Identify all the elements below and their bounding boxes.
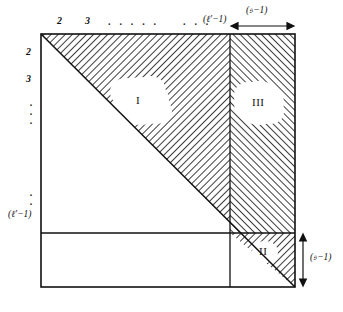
region-label-III: III xyxy=(252,97,265,108)
region-diagram xyxy=(0,0,343,312)
left-tick-3: 3 xyxy=(26,74,31,84)
top-tick-3: 3 xyxy=(85,16,90,26)
region-label-II: II xyxy=(259,246,267,257)
left-dots-upper: ... xyxy=(27,98,35,125)
top-dots-middle: . . . . . xyxy=(108,17,159,27)
top-tick-2: 2 xyxy=(57,16,62,26)
top-bracket-label: (𝔰−1) xyxy=(246,6,268,16)
left-end-label: (ℓ′−1) xyxy=(8,210,32,220)
left-tick-2: 2 xyxy=(26,47,31,57)
region-label-I: I xyxy=(136,95,140,106)
region-III-hatching xyxy=(230,34,295,233)
left-dots-lower: .. xyxy=(27,188,35,206)
top-end-label: (ℓ′−1) xyxy=(203,15,227,25)
right-bracket-label: (𝔰−1) xyxy=(310,253,332,263)
